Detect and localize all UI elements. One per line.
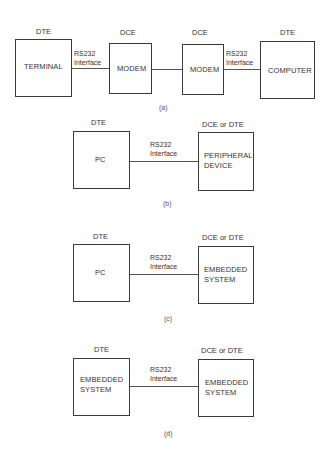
- modem1-box: MODEM: [109, 43, 152, 94]
- computer-role-label: DTE: [280, 28, 295, 37]
- modem2-role-label: DCE: [192, 28, 208, 37]
- pc-box: PC: [73, 244, 130, 302]
- terminal-box: TERMINAL: [15, 39, 72, 97]
- peripheral-label-line1: PERIPHERAL: [204, 151, 253, 161]
- rs232-connection-line: [224, 69, 260, 70]
- rs232-label: RS232: [150, 141, 171, 150]
- computer-label: COMPUTER: [268, 66, 312, 76]
- rs232-connection-line: [130, 161, 198, 162]
- interface-label: Interface: [74, 59, 101, 68]
- computer-box: COMPUTER: [260, 41, 315, 99]
- rs232-connection-line: [130, 386, 198, 387]
- rs232-label: RS232: [74, 50, 95, 59]
- embedded-dte-role-label: DTE: [94, 345, 109, 354]
- embedded-label-line1: EMBEDDED: [204, 265, 247, 275]
- modem1-label: MODEM: [117, 64, 146, 74]
- pc-label: PC: [95, 155, 106, 165]
- interface-label: Interface: [150, 150, 177, 159]
- peripheral-label-line2: DEVICE: [204, 161, 233, 171]
- embedded-system-box: EMBEDDED SYSTEM: [198, 246, 254, 304]
- rs232-label: RS232: [150, 366, 171, 375]
- embedded-label-line2: SYSTEM: [204, 275, 235, 285]
- rs232-connection-line: [72, 68, 109, 69]
- modem-connection-line: [152, 69, 182, 70]
- pc-role-label: DTE: [91, 118, 106, 127]
- modem1-role-label: DCE: [120, 28, 136, 37]
- terminal-label: TERMINAL: [24, 62, 63, 72]
- interface-label: Interface: [150, 263, 177, 272]
- peripheral-device-box: PERIPHERAL DEVICE: [198, 132, 254, 191]
- embedded-system-box-right: EMBEDDED SYSTEM: [198, 359, 254, 417]
- modem2-label: MODEM: [190, 65, 219, 75]
- embedded-label-line1: EMBEDDED: [205, 378, 248, 388]
- embedded-label-line2: SYSTEM: [205, 388, 236, 398]
- rs232-label: RS232: [226, 50, 247, 59]
- pc-role-label: DTE: [93, 232, 108, 241]
- panel-a-caption: (a): [159, 104, 168, 112]
- panel-c-caption: (c): [164, 315, 172, 323]
- modem2-box: MODEM: [182, 44, 224, 95]
- rs232-connection-line: [130, 274, 198, 275]
- embedded-label-line2: SYSTEM: [80, 385, 111, 395]
- interface-label: Interface: [226, 59, 253, 68]
- rs232-label: RS232: [150, 254, 171, 263]
- pc-box: PC: [73, 131, 130, 189]
- embedded-label-line1: EMBEDDED: [80, 375, 123, 385]
- embedded-dce-role-label: DCE or DTE: [201, 346, 243, 355]
- embedded-role-label: DCE or DTE: [202, 233, 244, 242]
- embedded-system-box-left: EMBEDDED SYSTEM: [73, 358, 130, 416]
- peripheral-role-label: DCE or DTE: [202, 120, 244, 129]
- interface-label: Interface: [150, 375, 177, 384]
- panel-b-caption: (b): [163, 200, 172, 208]
- terminal-role-label: DTE: [36, 27, 51, 36]
- panel-d-caption: (d): [164, 430, 173, 438]
- pc-label: PC: [95, 268, 106, 278]
